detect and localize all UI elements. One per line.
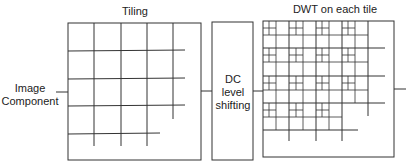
- tiling-grid: [68, 23, 185, 146]
- tiling-box: [68, 23, 201, 160]
- diagram-graphics: [0, 0, 413, 166]
- dwt-grid: [263, 21, 385, 141]
- dc-level-shifting-box: [212, 22, 253, 160]
- dwt-box: [263, 21, 394, 157]
